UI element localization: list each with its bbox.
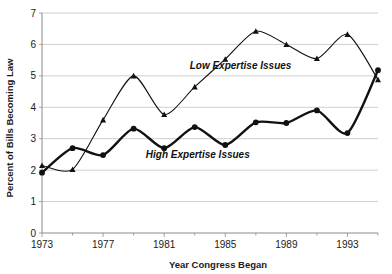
x-tick-label-1973: 1973 <box>31 239 54 250</box>
x-tick-label-1977: 1977 <box>92 239 115 250</box>
x-tick-label-1981: 1981 <box>153 239 176 250</box>
x-tick-label-1985: 1985 <box>214 239 237 250</box>
line-chart: 01234567 197319771981198519891993 Low Ex… <box>0 0 392 274</box>
marker-high-expertise-issues-1973 <box>39 170 45 176</box>
marker-high-expertise-issues-1975 <box>70 145 76 151</box>
x-axis-title: Year Congress Began <box>169 259 267 270</box>
y-tick-label-4: 4 <box>30 102 36 113</box>
marker-high-expertise-issues-1989 <box>283 120 289 126</box>
y-tick-label-1: 1 <box>30 196 36 207</box>
marker-high-expertise-issues-1979 <box>131 126 137 132</box>
x-tick-label-1993: 1993 <box>336 239 359 250</box>
marker-high-expertise-issues-1991 <box>314 108 320 114</box>
marker-high-expertise-issues-1977 <box>100 152 106 158</box>
marker-high-expertise-issues-1987 <box>253 119 259 125</box>
marker-high-expertise-issues-1983 <box>192 124 198 130</box>
x-tick-label-1989: 1989 <box>275 239 298 250</box>
annotation-low-expertise-issues: Low Expertise Issues <box>190 60 292 71</box>
y-tick-label-3: 3 <box>30 133 36 144</box>
y-tick-label-2: 2 <box>30 165 36 176</box>
annotation-high-expertise-issues: High Expertise Issues <box>146 149 250 160</box>
y-tick-label-0: 0 <box>30 228 36 239</box>
y-tick-label-7: 7 <box>30 8 36 19</box>
y-tick-label-6: 6 <box>30 39 36 50</box>
y-axis-title: Percent of Bills Becoming Law <box>4 58 15 197</box>
marker-high-expertise-issues-1993 <box>345 130 351 136</box>
marker-high-expertise-issues-1995 <box>375 67 381 73</box>
chart-container: 01234567 197319771981198519891993 Low Ex… <box>0 0 392 274</box>
y-tick-label-5: 5 <box>30 70 36 81</box>
marker-high-expertise-issues-1985 <box>222 142 228 148</box>
